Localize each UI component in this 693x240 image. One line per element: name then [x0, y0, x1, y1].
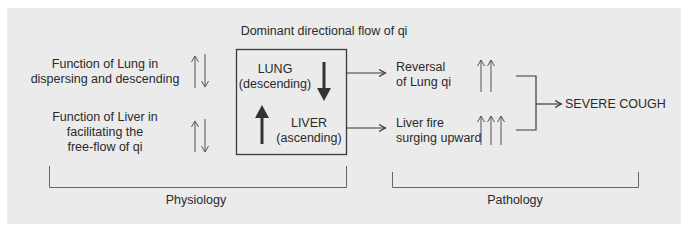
lung-direction: (descending): [239, 77, 311, 92]
severe-cough-label: SEVERE COUGH: [565, 97, 666, 112]
lung-function-text: Function of Lung in dispersing and desce…: [31, 57, 180, 87]
liver-function-line-2: facilitating the: [52, 125, 158, 140]
liver-fire-triple-up-arrows-icon: [481, 116, 501, 145]
physiology-label: Physiology: [166, 193, 226, 208]
merge-bracket: [516, 76, 536, 130]
liver-function-text: Function of Liver in facilitating the fr…: [52, 110, 158, 155]
box-lung-label: LUNG (descending): [239, 62, 311, 92]
lung-function-line-1: Function of Lung in: [31, 57, 180, 72]
lung-function-line-2: dispersing and descending: [31, 72, 180, 87]
liver-name: LIVER: [276, 116, 341, 131]
bold-down-arrow-icon: [317, 62, 331, 101]
physiology-bracket: [50, 166, 347, 188]
liver-fire-line-2: surging upward: [396, 131, 481, 146]
bold-up-arrow-icon: [255, 105, 269, 144]
lung-reversal-line-2: of Lung qi: [396, 75, 451, 90]
lung-function-up-down-arrows-icon: [195, 54, 205, 88]
lung-reversal-text: Reversal of Lung qi: [396, 60, 451, 90]
pathology-label: Pathology: [487, 193, 543, 208]
lung-reversal-double-up-arrows-icon: [481, 60, 491, 92]
box-liver-label: LIVER (ascending): [276, 116, 341, 146]
liver-function-line-1: Function of Liver in: [52, 110, 158, 125]
diagram-title: Dominant directional flow of qi: [241, 24, 408, 39]
liver-fire-line-1: Liver fire: [396, 116, 481, 131]
lung-name: LUNG: [239, 62, 311, 77]
pathology-bracket: [393, 172, 639, 188]
liver-fire-text: Liver fire surging upward: [396, 116, 481, 146]
liver-function-up-down-arrows-icon: [195, 119, 205, 152]
liver-direction: (ascending): [276, 131, 341, 146]
liver-function-line-3: free-flow of qi: [52, 140, 158, 155]
lung-reversal-line-1: Reversal: [396, 60, 451, 75]
